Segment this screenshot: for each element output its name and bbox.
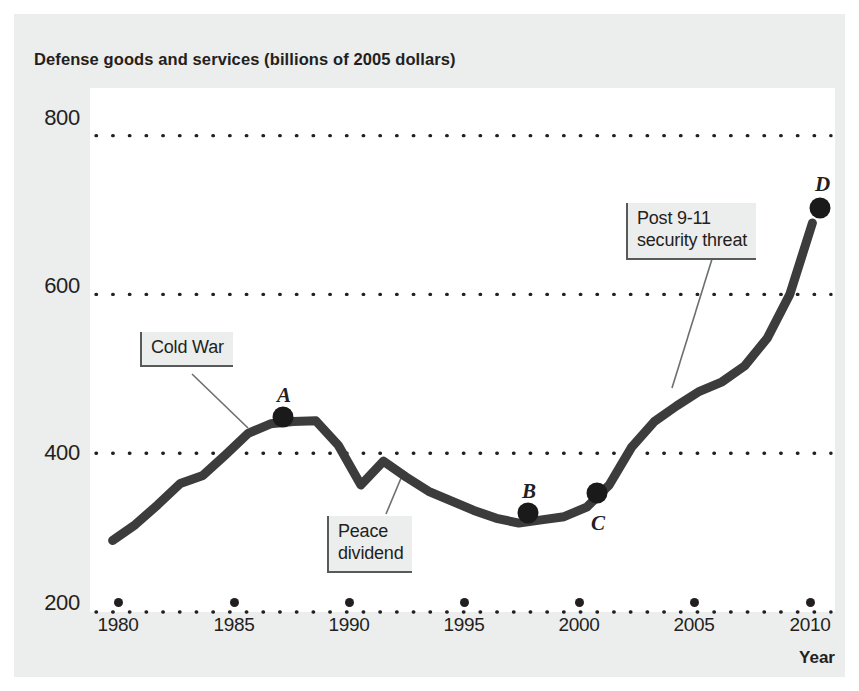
x-tick-dot-1995 [460,598,469,607]
x-tick-label-1985: 1985 [194,614,274,636]
y-tick-label-200: 200 [18,590,80,616]
chart-title: Defense goods and services (billions of … [34,50,456,69]
x-tick-dot-1980 [114,598,123,607]
x-tick-label-1980: 1980 [78,614,158,636]
annotation-post-911: Post 9-11 security threat [626,203,756,260]
y-tick-label-400: 400 [18,440,80,466]
x-axis-title: Year [799,648,835,668]
x-tick-dot-2010 [806,598,815,607]
y-tick-label-600: 600 [18,273,80,299]
x-tick-label-2010: 2010 [770,614,850,636]
x-tick-label-1995: 1995 [424,614,504,636]
x-tick-dot-2005 [690,598,699,607]
x-tick-dot-2000 [575,598,584,607]
x-tick-label-2000: 2000 [539,614,619,636]
annotation-peace-dividend: Peace dividend [327,516,412,573]
point-label-d: D [815,172,830,197]
point-label-c: C [591,511,605,536]
x-tick-label-2005: 2005 [654,614,734,636]
x-tick-dot-1985 [230,598,239,607]
x-tick-dot-1990 [345,598,354,607]
point-label-b: B [522,479,536,504]
y-tick-label-800: 800 [18,105,80,131]
x-tick-label-1990: 1990 [309,614,389,636]
point-label-a: A [277,383,291,408]
chart-figure: Defense goods and services (billions of … [0,0,859,691]
annotation-cold-war: Cold War [140,332,233,367]
